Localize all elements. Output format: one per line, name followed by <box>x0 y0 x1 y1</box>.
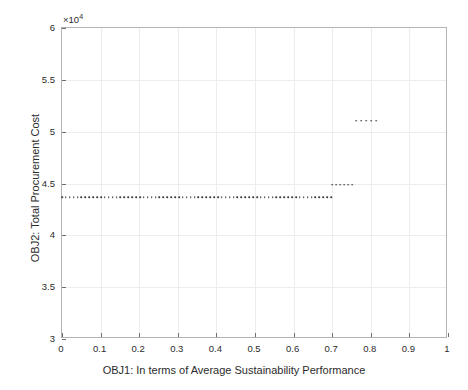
data-point <box>139 196 141 198</box>
data-point <box>311 196 313 198</box>
scatter-chart-figure: ×104 00.10.20.30.40.50.60.70.80.91 33.54… <box>0 0 468 390</box>
data-point <box>252 196 254 198</box>
data-point <box>155 196 157 198</box>
data-point <box>322 196 324 198</box>
data-point <box>69 196 71 198</box>
data-point <box>81 196 83 198</box>
data-point <box>287 196 289 198</box>
x-tick-label: 0.9 <box>402 343 415 354</box>
y-tick-mark <box>62 184 66 185</box>
y-tick-mark <box>62 235 66 236</box>
data-point <box>326 196 328 198</box>
gridline-horizontal <box>62 287 446 288</box>
x-tick-label: 0 <box>58 343 63 354</box>
x-tick-mark <box>448 333 449 337</box>
data-point <box>229 196 231 198</box>
data-point <box>100 196 102 198</box>
data-point <box>104 196 106 198</box>
data-point <box>135 196 137 198</box>
x-tick-mark <box>216 333 217 337</box>
data-point <box>116 196 118 198</box>
data-point <box>370 120 372 122</box>
y-tick-mark <box>62 339 66 340</box>
data-point <box>131 196 133 198</box>
gridline-vertical <box>101 28 102 337</box>
y-axis-title: OBJ2: Total Procurement Cost <box>29 68 41 308</box>
gridline-horizontal <box>62 235 446 236</box>
x-tick-label: 1 <box>444 343 449 354</box>
x-tick-mark <box>139 333 140 337</box>
data-point <box>88 196 90 198</box>
data-point <box>77 196 79 198</box>
y-tick-label: 6 <box>25 22 55 33</box>
data-point <box>260 196 262 198</box>
data-point <box>186 196 188 198</box>
x-tick-label: 0.6 <box>286 343 299 354</box>
data-point <box>190 196 192 198</box>
data-point <box>182 196 184 198</box>
data-point <box>291 196 293 198</box>
x-tick-label: 0.7 <box>325 343 338 354</box>
data-point <box>347 184 349 186</box>
y-axis-exponent-mantissa: ×10 <box>63 14 79 25</box>
data-point <box>330 196 332 198</box>
data-point <box>147 196 149 198</box>
data-point <box>283 196 285 198</box>
y-tick-mark <box>62 132 66 133</box>
data-point <box>233 196 235 198</box>
y-tick-mark <box>62 80 66 81</box>
x-tick-label: 0.3 <box>170 343 183 354</box>
data-point <box>217 196 219 198</box>
data-point <box>221 196 223 198</box>
data-point <box>276 196 278 198</box>
y-tick-mark <box>62 287 66 288</box>
data-point <box>166 196 168 198</box>
gridline-horizontal <box>62 132 446 133</box>
y-axis-exponent-label: ×104 <box>63 13 83 25</box>
data-point <box>225 196 227 198</box>
gridline-horizontal <box>62 80 446 81</box>
gridline-vertical <box>139 28 140 337</box>
y-tick-label: 3 <box>25 333 55 344</box>
data-point <box>299 196 301 198</box>
x-tick-mark <box>371 333 372 337</box>
data-point <box>244 196 246 198</box>
x-tick-mark <box>62 333 63 337</box>
data-point <box>280 196 282 198</box>
data-point <box>198 196 200 198</box>
y-axis-exponent-power: 4 <box>79 13 83 20</box>
data-point <box>303 196 305 198</box>
gridline-horizontal <box>62 184 446 185</box>
data-point <box>237 196 239 198</box>
data-point <box>96 196 98 198</box>
data-point <box>343 184 345 186</box>
data-point <box>65 196 67 198</box>
data-point <box>178 196 180 198</box>
x-tick-label: 0.1 <box>93 343 106 354</box>
data-point <box>174 196 176 198</box>
data-point <box>209 196 211 198</box>
data-point <box>315 196 317 198</box>
gridline-vertical <box>409 28 410 337</box>
gridline-vertical <box>216 28 217 337</box>
x-tick-label: 0.2 <box>132 343 145 354</box>
data-point <box>194 196 196 198</box>
data-point <box>272 196 274 198</box>
data-point <box>170 196 172 198</box>
data-point <box>205 196 207 198</box>
data-point <box>365 120 367 122</box>
x-tick-mark <box>294 333 295 337</box>
data-point <box>351 184 353 186</box>
data-point <box>241 196 243 198</box>
data-point <box>295 196 297 198</box>
x-tick-mark <box>101 333 102 337</box>
gridline-vertical <box>294 28 295 337</box>
gridline-vertical <box>371 28 372 337</box>
data-point <box>151 196 153 198</box>
data-point <box>268 196 270 198</box>
data-point <box>108 196 110 198</box>
gridline-vertical <box>178 28 179 337</box>
data-point <box>307 196 309 198</box>
x-axis-title: OBJ1: In terms of Average Sustainability… <box>0 364 468 376</box>
x-tick-mark <box>409 333 410 337</box>
